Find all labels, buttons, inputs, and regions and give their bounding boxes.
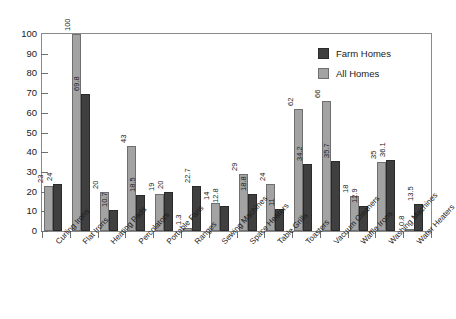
bar-farm[interactable]: 12.8 bbox=[220, 206, 229, 231]
bar-value-label: 35 bbox=[369, 151, 377, 161]
bar-value-label: 35.7 bbox=[323, 143, 331, 160]
bar-value-label: 24 bbox=[258, 172, 266, 182]
bar-group: 2010.7 bbox=[98, 34, 126, 231]
bar-all[interactable]: 66 bbox=[322, 101, 331, 231]
y-axis-tick-label: 50 bbox=[26, 128, 37, 138]
bar-value-label: 14 bbox=[203, 192, 211, 202]
bar-all[interactable]: 100 bbox=[72, 34, 81, 231]
bar-value-label: 12.8 bbox=[212, 188, 220, 205]
bar-group: 4318.5 bbox=[125, 34, 153, 231]
bar-value-label: 19 bbox=[147, 182, 155, 192]
bar-value-label: 24 bbox=[45, 172, 53, 182]
y-axis-tick-label: 100 bbox=[21, 29, 37, 39]
y-axis-tick-label: 40 bbox=[26, 147, 37, 157]
legend-label: Farm Homes bbox=[336, 49, 391, 59]
y-axis-tick-label: 60 bbox=[26, 108, 37, 118]
bar-farm[interactable]: 35.7 bbox=[331, 161, 340, 231]
bar-group: 1412.8 bbox=[209, 34, 237, 231]
bar-group: 10069.8 bbox=[70, 34, 98, 231]
bar-value-label: 43 bbox=[119, 135, 127, 145]
bar-value-label: 69.8 bbox=[73, 76, 81, 93]
bar-value-label: 18 bbox=[342, 184, 350, 194]
y-axis-tick-label: 80 bbox=[26, 68, 37, 78]
bar-value-label: 29 bbox=[231, 163, 239, 173]
bar-value-label: 12.9 bbox=[351, 188, 359, 205]
legend-swatch-farm bbox=[318, 48, 329, 59]
bar-group: 1920 bbox=[153, 34, 181, 231]
bar-value-label: 62 bbox=[286, 98, 294, 108]
y-axis-tick-label: 10 bbox=[26, 206, 37, 216]
y-axis-tick-label: 70 bbox=[26, 88, 37, 98]
y-axis-tick-label: 90 bbox=[26, 49, 37, 59]
y-axis-tick-label: 20 bbox=[26, 187, 37, 197]
bar-chart: 0102030405060708090100 232410069.82010.7… bbox=[0, 0, 456, 319]
y-axis-tick-label: 0 bbox=[32, 226, 37, 236]
bar-value-label: 10.7 bbox=[101, 192, 109, 209]
bar-value-label: 18.8 bbox=[240, 176, 248, 193]
legend-label: All Homes bbox=[336, 69, 379, 79]
bar-value-label: 22.7 bbox=[184, 169, 192, 186]
bar-value-label: 34.2 bbox=[295, 146, 303, 163]
legend-swatch-all bbox=[318, 68, 329, 79]
bar-value-label: 100 bbox=[64, 18, 72, 33]
bar-value-label: 18.5 bbox=[128, 177, 136, 194]
x-axis-category-labels: Curling IronsFlat IronsHeating PadsPerco… bbox=[42, 240, 431, 319]
bar-value-label: 36.1 bbox=[378, 142, 386, 159]
bar-value-label: 20 bbox=[156, 180, 164, 190]
legend-item[interactable]: Farm Homes bbox=[318, 45, 422, 62]
bar-value-label: 13.5 bbox=[406, 187, 414, 204]
bar-group: 6234.2 bbox=[292, 34, 320, 231]
bar-value-label: 20 bbox=[92, 180, 100, 190]
bar-value-label: 23 bbox=[36, 174, 44, 184]
bar-group: 2411 bbox=[264, 34, 292, 231]
bar-value-label: 66 bbox=[314, 90, 322, 100]
legend: Farm HomesAll Homes bbox=[318, 45, 422, 85]
x-axis-tick bbox=[42, 232, 43, 238]
bar-farm[interactable]: 24 bbox=[53, 184, 62, 231]
legend-item[interactable]: All Homes bbox=[318, 65, 422, 82]
bar-all[interactable]: 23 bbox=[44, 186, 53, 231]
bar-group: 2324 bbox=[42, 34, 70, 231]
